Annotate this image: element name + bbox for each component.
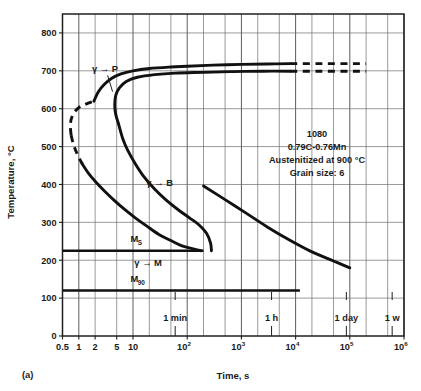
label-gamma-to-bainite: γ → B	[146, 177, 173, 188]
panel-label: (a)	[22, 369, 33, 380]
x-tick-label-text: 2	[93, 342, 98, 352]
m90-label-subscript: 90	[138, 279, 146, 286]
x-tick-label-exponent: 6	[404, 340, 408, 347]
y-tick-label: 500	[41, 142, 56, 152]
x-tick-label-exponent: 4	[296, 340, 300, 347]
y-tick-label: 700	[41, 66, 56, 76]
annotation-line-3: Austenitized at 900 °C	[269, 155, 365, 165]
ms-label-subscript: S	[138, 239, 143, 246]
y-tick-label: 400	[41, 180, 56, 190]
x-tick-label: 2	[93, 342, 98, 352]
x-tick-label-text: 1	[76, 342, 81, 352]
time-marker-label: 1 day	[335, 313, 359, 323]
x-tick-label: 0.5	[56, 342, 69, 352]
x-tick-label-exponent: 3	[242, 340, 246, 347]
x-tick-label-base: 10	[394, 342, 404, 352]
time-marker-label: 1 h	[265, 313, 279, 323]
y-tick-label: 300	[41, 218, 56, 228]
time-marker-label: 1 min	[163, 313, 187, 323]
annotation-line-4: Grain size: 6	[290, 168, 345, 178]
x-tick-label: 5	[114, 342, 119, 352]
x-tick-label-exponent: 5	[350, 340, 354, 347]
x-tick-label-base: 10	[231, 342, 241, 352]
x-tick-label-text: 10	[128, 342, 138, 352]
x-tick-label-exponent: 2	[187, 340, 191, 347]
x-tick-label-text: 0.5	[56, 342, 69, 352]
ttt-diagram-figure: 0100200300400500600700800 0.512510102103…	[0, 0, 421, 391]
x-tick-label: 1	[76, 342, 81, 352]
annotation-line-2: 0.79C-0.76Mn	[288, 142, 347, 152]
y-tick-label: 0	[51, 331, 56, 341]
y-axis-title: Temperature, °C	[5, 145, 16, 219]
x-tick-label-base: 10	[177, 342, 187, 352]
x-tick-label-base: 10	[285, 342, 295, 352]
x-tick-label-base: 10	[340, 342, 350, 352]
y-tick-label: 800	[41, 28, 56, 38]
y-tick-label: 600	[41, 104, 56, 114]
label-gamma-to-martensite: γ → M	[134, 257, 162, 268]
label-gamma-to-pearlite: γ → P	[92, 63, 118, 74]
y-tick-label: 200	[41, 256, 56, 266]
time-marker-label: 1 w	[385, 313, 401, 323]
y-tick-label: 100	[41, 293, 56, 303]
x-tick-label-text: 5	[114, 342, 119, 352]
annotation-line-1: 1080	[307, 129, 327, 139]
x-tick-label: 10	[128, 342, 138, 352]
x-axis-title: Time, s	[217, 370, 250, 381]
